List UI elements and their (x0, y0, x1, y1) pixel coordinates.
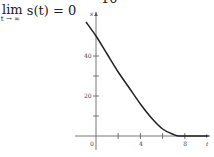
ticks (93, 56, 185, 139)
y-tick-label: 20 (84, 92, 92, 99)
x-tick-label: 0 (90, 140, 94, 147)
curve-s-of-t (86, 22, 207, 136)
x-tick-label: 8 (183, 140, 187, 147)
y-tick-label: 40 (84, 52, 92, 59)
y-axis-arrow-icon (94, 12, 98, 16)
x-tick-label: 4 (139, 140, 143, 147)
y-axis-label: s (90, 10, 93, 17)
tick-labels: 0482040ts (84, 10, 209, 147)
chart: 0482040ts (0, 0, 214, 157)
x-axis-label: t (206, 140, 209, 147)
axes (75, 12, 210, 150)
